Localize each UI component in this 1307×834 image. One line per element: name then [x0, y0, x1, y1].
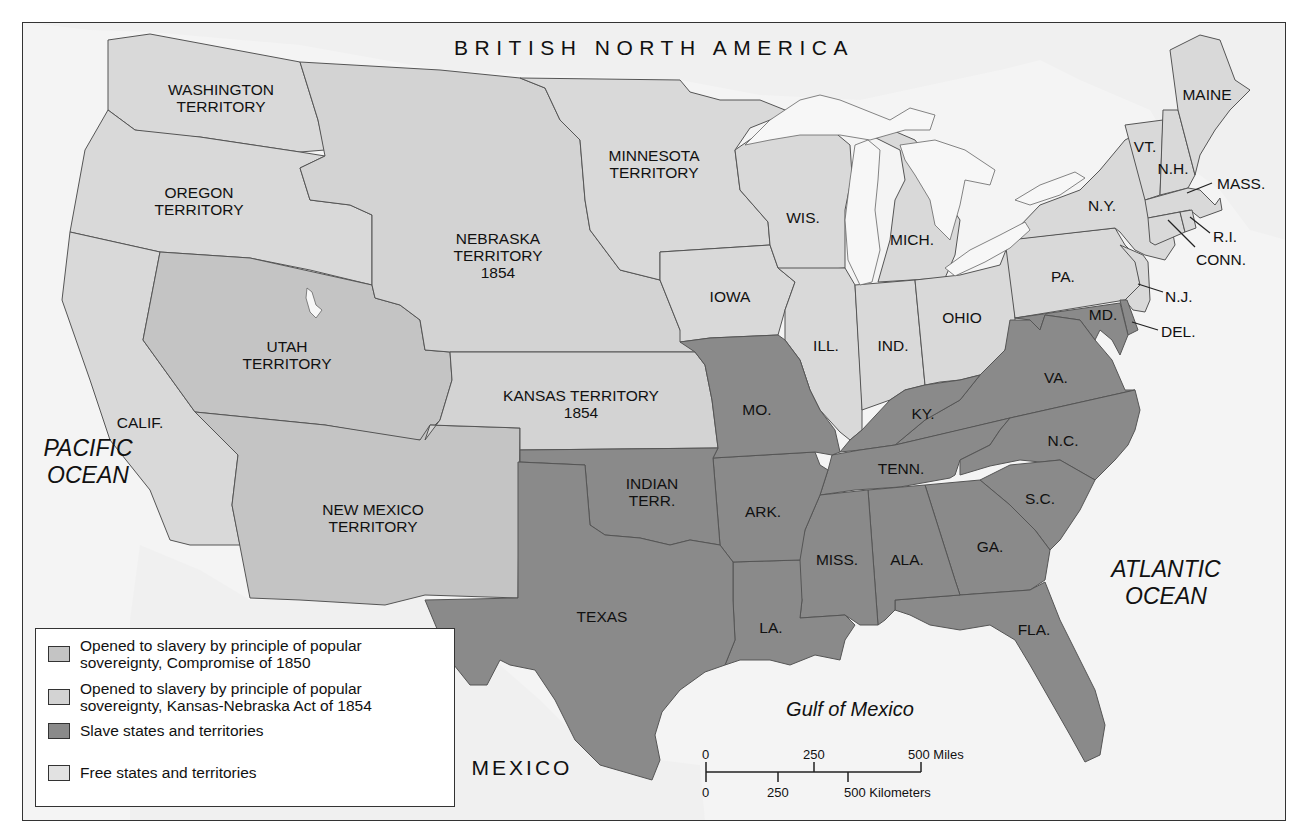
label-california: CALIF. [117, 414, 164, 431]
label-atlantic-ocean: ATLANTIC OCEAN [1111, 556, 1220, 610]
label-vermont: VT. [1134, 138, 1156, 155]
scale-bar: 0 250 500 Miles 0 250 500 Kilometers [700, 748, 1000, 808]
legend-item-free: Free states and territories [48, 764, 257, 781]
label-new-york: N.Y. [1088, 197, 1116, 214]
scale-miles-250: 250 [803, 748, 825, 762]
label-new-jersey: N.J. [1165, 288, 1193, 305]
legend-item-kansas-nebraska: Opened to slavery by principle of popula… [48, 680, 372, 714]
scale-km-0: 0 [702, 786, 709, 800]
label-kansas: KANSAS TERRITORY 1854 [503, 387, 659, 421]
label-arkansas: ARK. [745, 503, 781, 520]
label-alabama: ALA. [890, 551, 924, 568]
label-mexico: MEXICO [472, 759, 573, 776]
label-kentucky: KY. [912, 405, 935, 422]
scale-miles-0: 0 [702, 748, 709, 762]
label-mississippi: MISS. [816, 551, 858, 568]
label-virginia: VA. [1044, 369, 1068, 386]
label-texas: TEXAS [577, 608, 628, 625]
label-new-mexico: NEW MEXICO TERRITORY [322, 501, 424, 535]
label-maine: MAINE [1182, 86, 1231, 103]
label-missouri: MO. [742, 401, 771, 418]
legend-label: Opened to slavery by principle of popula… [80, 637, 362, 671]
legend-label: Opened to slavery by principle of popula… [80, 680, 372, 714]
map-legend: Opened to slavery by principle of popula… [35, 628, 455, 807]
label-british-north-america: BRITISH NORTH AMERICA [454, 39, 854, 56]
label-nebraska: NEBRASKA TERRITORY 1854 [454, 230, 543, 281]
label-north-carolina: N.C. [1048, 432, 1079, 449]
legend-item-compromise-1850: Opened to slavery by principle of popula… [48, 637, 362, 671]
label-maryland: MD. [1089, 306, 1117, 323]
label-georgia: GA. [977, 538, 1004, 555]
label-pennsylvania: PA. [1051, 268, 1075, 285]
label-washington: WASHINGTON TERRITORY [168, 81, 274, 115]
legend-swatch-compromise-1850 [48, 646, 70, 662]
label-illinois: ILL. [813, 337, 839, 354]
label-new-hampshire: N.H. [1158, 160, 1189, 177]
label-south-carolina: S.C. [1025, 490, 1055, 507]
label-connecticut: CONN. [1196, 251, 1246, 268]
scale-miles-500: 500 Miles [908, 748, 964, 762]
legend-swatch-slave [48, 723, 70, 739]
label-gulf-of-mexico: Gulf of Mexico [786, 701, 914, 718]
label-florida: FLA. [1018, 621, 1051, 638]
label-indiana: IND. [878, 337, 909, 354]
label-michigan: MICH. [890, 231, 934, 248]
legend-swatch-free [48, 765, 70, 781]
legend-swatch-kansas-nebraska [48, 689, 70, 705]
label-rhode-island: R.I. [1213, 228, 1237, 245]
label-massachusetts: MASS. [1217, 175, 1265, 192]
label-minnesota: MINNESOTA TERRITORY [609, 147, 700, 181]
label-pacific-ocean: PACIFIC OCEAN [43, 435, 132, 489]
label-utah: UTAH TERRITORY [243, 338, 332, 372]
legend-label: Slave states and territories [80, 722, 264, 739]
label-ohio: OHIO [942, 309, 982, 326]
label-tennessee: TENN. [878, 460, 925, 477]
label-indian-territory: INDIAN TERR. [626, 475, 679, 509]
label-louisiana: LA. [759, 619, 782, 636]
label-wisconsin: WIS. [786, 209, 820, 226]
label-oregon: OREGON TERRITORY [155, 184, 244, 218]
label-iowa: IOWA [710, 288, 751, 305]
legend-label: Free states and territories [80, 764, 257, 781]
legend-item-slave: Slave states and territories [48, 722, 264, 739]
scale-km-500: 500 Kilometers [844, 786, 931, 800]
label-delaware: DEL. [1161, 323, 1195, 340]
scale-km-250: 250 [767, 786, 789, 800]
